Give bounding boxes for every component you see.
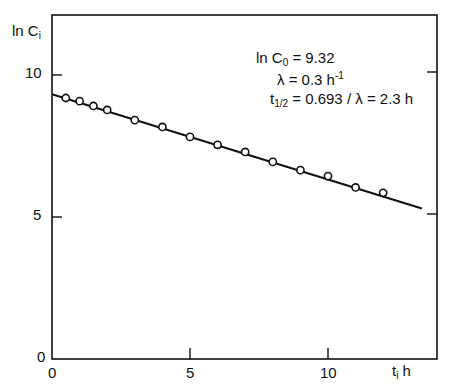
plot-frame [52,15,437,359]
data-point [380,189,387,196]
y-tick-label-0: 0 [37,348,45,365]
annotation-half-life: t1/2 = 0.693 / λ = 2.3 h [270,90,413,109]
data-point [90,102,97,109]
data-point [214,141,221,148]
annotation-lambda: λ = 0.3 h-1 [277,70,344,88]
data-point [297,167,304,174]
data-point [104,106,111,113]
data-point [269,158,276,165]
data-point [159,123,166,130]
data-point [76,98,83,105]
chart-canvas [0,0,454,389]
data-point [186,133,193,140]
data-points [62,94,387,196]
x-axis-label: ti h [392,362,411,381]
annotation-ln-c0: ln C0 = 9.32 [256,49,335,68]
data-point [62,94,69,101]
data-point [131,117,138,124]
data-point [324,173,331,180]
x-tick-label-5: 5 [186,364,194,381]
y-tick-label-10: 10 [25,64,42,81]
y-axis-label: ln Ci [12,22,41,41]
x-tick-label-0: 0 [48,364,56,381]
x-tick-label-10: 10 [320,364,337,381]
data-point [242,148,249,155]
y-tick-label-5: 5 [33,206,41,223]
data-point [352,184,359,191]
axis-ticks [52,72,437,359]
